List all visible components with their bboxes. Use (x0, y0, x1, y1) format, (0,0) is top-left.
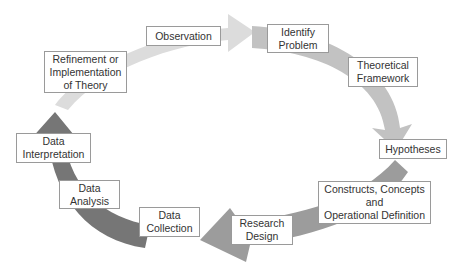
step-label: Data Interpretation (23, 135, 85, 161)
step-label: Research Design (240, 217, 285, 243)
step-data-analysis: Data Analysis (59, 180, 120, 209)
step-data-collection: Data Collection (139, 207, 200, 237)
step-observation: Observation (146, 26, 221, 46)
step-research-design: Research Design (231, 215, 293, 245)
step-label: Data Collection (146, 209, 192, 235)
step-data-interpretation: Data Interpretation (16, 133, 91, 163)
step-label: Constructs, Concepts and Operational Def… (324, 183, 425, 222)
step-label: Observation (155, 30, 212, 43)
step-theoretical-framework: Theoretical Framework (348, 57, 418, 87)
step-label: Theoretical Framework (357, 59, 410, 85)
step-refinement: Refinement or Implementation of Theory (44, 51, 127, 93)
step-label: Data Analysis (70, 182, 109, 208)
step-label: Identify Problem (278, 26, 317, 52)
step-identify-problem: Identify Problem (267, 24, 329, 53)
step-label: Refinement or Implementation of Theory (50, 53, 122, 92)
step-constructs: Constructs, Concepts and Operational Def… (318, 181, 431, 224)
step-label: Hypotheses (385, 143, 440, 156)
step-hypotheses: Hypotheses (379, 139, 447, 159)
